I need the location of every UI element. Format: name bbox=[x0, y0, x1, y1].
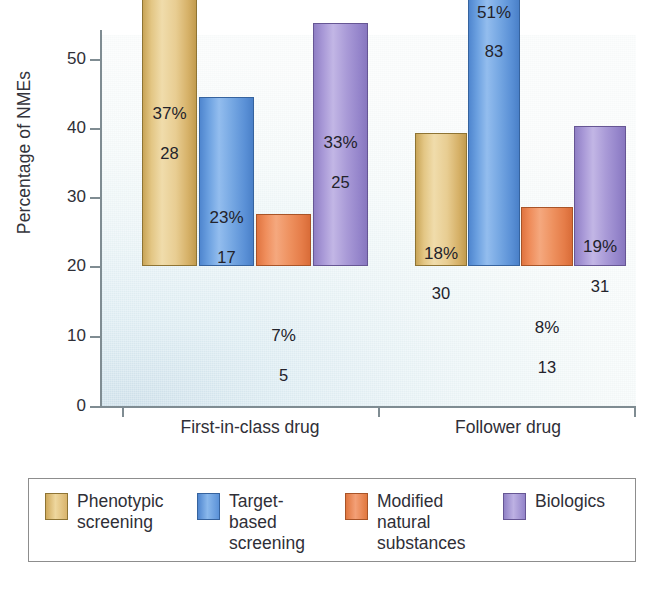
bar-label-count-follower-biologics: 31 bbox=[563, 277, 637, 296]
y-tick-40 bbox=[90, 128, 101, 130]
legend-label-line2: based bbox=[229, 512, 305, 533]
legend-label-phenotypic: Phenotypic screening bbox=[77, 491, 164, 533]
y-tick-10 bbox=[90, 336, 101, 338]
legend-label-line3: substances bbox=[377, 533, 466, 554]
y-tick-label-0: 0 bbox=[42, 396, 86, 416]
legend-label-biologics: Biologics bbox=[535, 491, 605, 512]
bar-label-pct-follower-modified-natural: 8% bbox=[510, 318, 584, 338]
legend-label-line2: natural bbox=[377, 512, 466, 533]
legend-label-line1: Target- bbox=[229, 491, 305, 512]
bar-label-pct-follower-phenotypic: 18% bbox=[404, 244, 478, 264]
chart-figure: Percentage of NMEs 50 40 30 20 10 0 Firs… bbox=[0, 0, 664, 601]
bar-label-pct-follower-target-based: 51% bbox=[457, 3, 531, 23]
bar-first-in-class-modified-natural[interactable] bbox=[256, 214, 311, 266]
bar-label-pct-follower-biologics: 19% bbox=[563, 237, 637, 257]
legend-swatch-icon-phenotypic bbox=[45, 493, 68, 520]
y-tick-label-50: 50 bbox=[42, 49, 86, 69]
bar-label-count-follower-target-based: 83 bbox=[457, 42, 531, 61]
x-group-label-first-in-class: First-in-class drug bbox=[130, 417, 370, 438]
bar-label-count-first-in-class-phenotypic: 28 bbox=[132, 144, 207, 163]
legend-swatch-icon-biologics bbox=[503, 493, 526, 520]
y-tick-label-40: 40 bbox=[42, 118, 86, 138]
y-tick-label-20: 20 bbox=[42, 256, 86, 276]
legend-item-phenotypic-screening[interactable]: Phenotypic screening bbox=[45, 491, 164, 533]
y-tick-30 bbox=[90, 197, 101, 199]
bar-label-count-follower-phenotypic: 30 bbox=[404, 284, 478, 303]
legend: Phenotypic screening Target- based scree… bbox=[28, 478, 636, 562]
y-axis-line bbox=[100, 30, 102, 408]
x-group-label-follower: Follower drug bbox=[390, 417, 626, 438]
bar-label-pct-first-in-class-phenotypic: 37% bbox=[132, 104, 207, 124]
legend-label-line1: Modified bbox=[377, 491, 466, 512]
legend-label-target-based: Target- based screening bbox=[229, 491, 305, 554]
legend-item-modified-natural-substances[interactable]: Modified natural substances bbox=[345, 491, 466, 554]
bar-label-count-first-in-class-biologics: 25 bbox=[303, 173, 378, 192]
legend-label-line2: screening bbox=[77, 512, 164, 533]
x-group-tick-1 bbox=[122, 406, 124, 417]
y-tick-50 bbox=[90, 59, 101, 61]
bar-label-count-follower-modified-natural: 13 bbox=[510, 358, 584, 377]
y-tick-20 bbox=[90, 266, 101, 268]
bar-label-count-first-in-class-target-based: 17 bbox=[189, 248, 264, 267]
legend-label-modified-natural: Modified natural substances bbox=[377, 491, 466, 554]
bar-label-pct-first-in-class-biologics: 33% bbox=[303, 133, 378, 153]
x-axis-line bbox=[90, 406, 636, 408]
legend-label-line3: screening bbox=[229, 533, 305, 554]
bar-label-count-first-in-class-modified-natural: 5 bbox=[246, 366, 321, 385]
legend-label-line1: Biologics bbox=[535, 491, 605, 512]
bar-follower-target-based[interactable] bbox=[468, 0, 520, 266]
plot-wrapper: Percentage of NMEs 50 40 30 20 10 0 Firs… bbox=[0, 0, 664, 460]
bar-first-in-class-target-based[interactable] bbox=[199, 97, 254, 266]
legend-swatch-icon-modified-natural bbox=[345, 493, 368, 520]
y-tick-label-10: 10 bbox=[42, 326, 86, 346]
x-group-tick-3 bbox=[634, 406, 636, 417]
bar-label-pct-first-in-class-modified-natural: 7% bbox=[246, 326, 321, 346]
x-group-tick-2 bbox=[378, 406, 380, 417]
legend-item-biologics[interactable]: Biologics bbox=[503, 491, 605, 520]
bar-label-pct-first-in-class-target-based: 23% bbox=[189, 208, 264, 228]
y-tick-0 bbox=[90, 406, 101, 408]
legend-swatch-icon-target-based bbox=[197, 493, 220, 520]
y-tick-label-30: 30 bbox=[42, 187, 86, 207]
legend-item-target-based-screening[interactable]: Target- based screening bbox=[197, 491, 305, 554]
legend-label-line1: Phenotypic bbox=[77, 491, 164, 512]
y-axis-title: Percentage of NMEs bbox=[14, 3, 35, 303]
